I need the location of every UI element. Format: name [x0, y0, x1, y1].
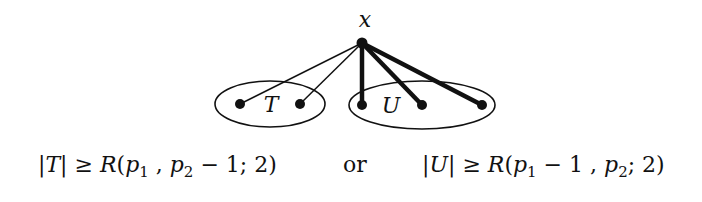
edge-thick-3 [362, 43, 482, 105]
set-U-label: U [382, 93, 402, 118]
U-node-2 [417, 100, 427, 110]
T-node-1 [235, 99, 245, 109]
set-T-label: T [264, 92, 281, 117]
edge-thin-2 [300, 43, 362, 104]
formula-left: |T| ≥ R(p1 , p2 − 1; 2) [38, 152, 277, 181]
T-node-2 [295, 99, 305, 109]
U-node-3 [477, 100, 487, 110]
apex-label-x: x [359, 7, 372, 32]
apex-node [357, 38, 368, 49]
U-node-1 [357, 100, 367, 110]
ramsey-diagram: x T U |T| ≥ R(p1 , p2 − 1; 2) or |U| ≥ R… [0, 0, 702, 202]
edge-thin-1 [240, 43, 362, 104]
formula-right: |U| ≥ R(p1 − 1 , p2; 2) [422, 152, 665, 181]
connector-or: or [343, 152, 367, 177]
